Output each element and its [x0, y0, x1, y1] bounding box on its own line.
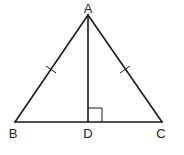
segment-ab [15, 15, 88, 122]
label-a: A [84, 1, 93, 16]
triangle-diagram: A B D C [0, 0, 184, 155]
tick-mark-ab [46, 66, 56, 73]
label-c: C [156, 126, 165, 141]
label-d: D [83, 126, 92, 141]
tick-mark-ac [120, 66, 130, 73]
label-b: B [9, 126, 18, 141]
segment-ac [88, 15, 162, 122]
right-angle-marker [88, 108, 102, 122]
